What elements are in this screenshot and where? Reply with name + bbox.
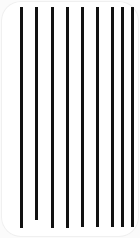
vertical-line (131, 7, 134, 227)
vertical-line (121, 7, 124, 227)
vertical-line (20, 7, 23, 228)
vertical-line (51, 7, 54, 228)
vertical-line (66, 7, 69, 228)
vertical-line (35, 7, 38, 220)
vertical-lines-group (0, 0, 140, 238)
vertical-line (96, 7, 99, 227)
screenshot-canvas (0, 0, 140, 238)
vertical-line (111, 7, 114, 227)
vertical-line (81, 7, 84, 227)
